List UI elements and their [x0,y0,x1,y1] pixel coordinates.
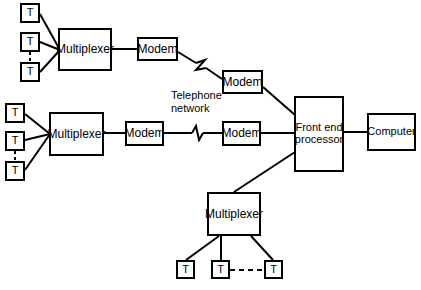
terminal-middle-1[interactable]: T [5,103,25,123]
telephone-network-label: Telephone network [171,89,222,115]
terminal-bottom-2[interactable]: T [211,260,230,279]
terminal-top-1[interactable]: T [20,3,40,23]
link-t-mid-3-to-mux-mid [25,134,50,170]
modem-top-b[interactable]: Modem [222,70,263,94]
multiplexer-bottom[interactable]: Multiplexer [207,192,261,236]
link-mux-bottom-to-t-bot-3 [251,236,273,260]
multiplexer-middle[interactable]: Multiplexer [49,112,104,156]
modem-middle-a[interactable]: Modem [125,121,164,146]
terminal-top-2[interactable]: T [20,32,40,52]
link-mux-bottom-to-t-bot-1 [186,236,219,260]
link-modem-top-a-to-lightning [178,52,196,63]
link-mux-bottom-to-fep [234,152,295,192]
terminal-middle-2[interactable]: T [5,131,25,151]
terminal-top-3[interactable]: T [20,62,40,82]
lightning-icon-top [196,60,206,70]
link-lightning-to-modem-top-b [206,68,222,79]
front-end-processor[interactable]: Front end processor [294,96,344,172]
terminal-bottom-3[interactable]: T [264,260,283,279]
link-t-mid-2-to-mux-mid [25,134,50,140]
multiplexer-top[interactable]: Multiplexer [58,28,112,71]
lightning-icon-middle [192,126,203,140]
modem-middle-b[interactable]: Modem [222,121,261,146]
link-modem-top-b-to-fep [263,87,295,115]
network-diagram: T T T Multiplexer Modem Modem Telephone … [0,0,421,290]
terminal-middle-3[interactable]: T [5,161,25,181]
computer[interactable]: Computer [367,113,416,151]
link-t-mid-1-to-mux-mid [25,114,50,134]
modem-top-a[interactable]: Modem [137,37,178,61]
terminal-bottom-1[interactable]: T [176,260,195,279]
